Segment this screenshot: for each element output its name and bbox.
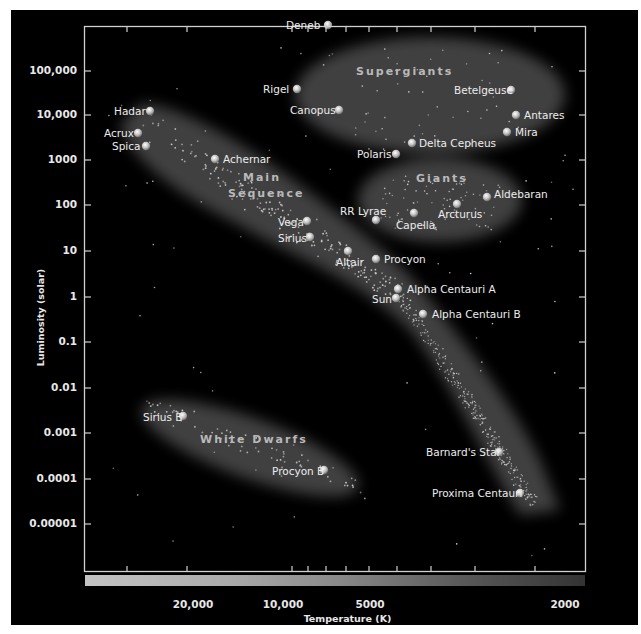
star-label: Sirius	[278, 232, 307, 244]
x-tick-label: 2000	[550, 598, 579, 610]
y-tick-label: 10	[7, 244, 77, 256]
temperature-color-bar	[85, 575, 585, 586]
supergiants-label: Supergiants	[356, 65, 453, 78]
star-label: Achernar	[223, 153, 270, 165]
star-label: Mira	[515, 126, 538, 138]
star-marker	[392, 294, 400, 302]
star-marker	[146, 107, 154, 115]
star-label: Hadar	[114, 105, 146, 117]
star-label: Rigel	[263, 83, 289, 95]
star-marker	[211, 155, 219, 163]
y-tick-label: 0.001	[7, 426, 77, 438]
y-tick-label: 0.01	[7, 381, 77, 393]
star-marker	[512, 111, 520, 119]
star-label: Alpha Centauri A	[407, 283, 496, 295]
star-marker	[324, 21, 332, 29]
star-label: Proxima Centauri	[432, 487, 522, 499]
star-label: Aldebaran	[494, 188, 548, 200]
giants-region	[358, 158, 522, 242]
main-sequence-label-2: Sequence	[228, 187, 304, 200]
star-label: Polaris	[357, 148, 391, 160]
y-tick-label: 1000	[7, 153, 77, 165]
star-marker	[394, 285, 402, 293]
y-axis-title: Luminosity (solar)	[35, 268, 46, 368]
y-tick-label: 0.00001	[7, 517, 77, 529]
star-label: Altair	[336, 256, 364, 268]
white-dwarfs-label: White Dwarfs	[200, 433, 308, 446]
star-marker	[142, 142, 150, 150]
y-tick-label: 100	[7, 198, 77, 210]
y-tick-label: 100,000	[7, 64, 77, 76]
star-label: RR Lyrae	[340, 205, 386, 217]
star-marker	[293, 85, 301, 93]
x-tick-label: 20,000	[173, 598, 214, 610]
x-tick-label: 10,000	[263, 598, 304, 610]
giants-label: Giants	[416, 172, 468, 185]
star-marker	[134, 129, 142, 137]
star-label: Sun	[372, 293, 392, 305]
star-label: Procyon	[384, 253, 426, 265]
x-axis-title: Temperature (K)	[27, 613, 641, 624]
star-label: Alpha Centauri B	[432, 308, 521, 320]
star-marker	[410, 209, 418, 217]
star-label: Vega	[278, 216, 304, 228]
star-label: Spica	[112, 140, 140, 152]
star-label: Acrux	[104, 127, 134, 139]
star-marker	[453, 200, 461, 208]
star-label: Arcturus	[438, 208, 482, 220]
star-marker	[419, 310, 427, 318]
star-label: Procyon B	[272, 465, 324, 477]
y-tick-label: 10,000	[7, 108, 77, 120]
star-marker	[408, 139, 416, 147]
star-marker	[303, 217, 311, 225]
star-marker	[392, 150, 400, 158]
hr-diagram-plot	[0, 0, 641, 634]
star-marker	[503, 128, 511, 136]
star-label: Deneb	[286, 19, 320, 31]
x-tick-label: 5000	[355, 598, 384, 610]
star-marker	[335, 106, 343, 114]
main-sequence-label-1: Main	[243, 171, 281, 184]
y-tick-label: 0.0001	[7, 472, 77, 484]
white-dwarfs-region	[132, 380, 369, 515]
star-label: Capella	[396, 219, 435, 231]
star-marker	[372, 216, 380, 224]
star-marker	[372, 255, 380, 263]
star-marker	[306, 233, 314, 241]
star-marker	[344, 247, 352, 255]
star-label: Betelgeuse	[454, 84, 513, 96]
star-label: Delta Cepheus	[419, 137, 496, 149]
star-label: Sirius B	[143, 411, 182, 423]
star-label: Barnard's Star	[426, 446, 501, 458]
star-label: Antares	[524, 109, 564, 121]
star-marker	[483, 193, 491, 201]
star-label: Canopus	[290, 104, 336, 116]
